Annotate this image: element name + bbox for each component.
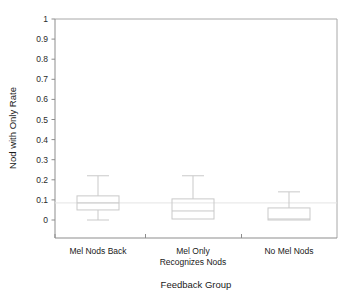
x-category-label: Mel Nods Back — [69, 246, 127, 256]
category-labels: Mel Nods BackMel OnlyRecognizes NodsNo M… — [69, 246, 313, 267]
plot-frame — [55, 19, 337, 238]
x-axis — [55, 234, 242, 238]
box-plot-item — [268, 192, 310, 220]
y-tick-label: 0.5 — [36, 115, 48, 125]
x-category-label: Mel Only — [176, 246, 210, 256]
box-plot-item — [172, 176, 214, 219]
x-category-label: No Mel Nods — [264, 246, 313, 256]
y-tick-label: 1 — [43, 14, 48, 24]
y-tick-label: 0.9 — [36, 34, 48, 44]
y-tick-label: 0.1 — [36, 195, 48, 205]
y-tick-label: 0.2 — [36, 175, 48, 185]
box-iqr — [172, 199, 214, 219]
box-iqr — [268, 208, 310, 220]
chart-canvas: 00.10.20.30.40.50.60.70.80.91 Mel Nods B… — [0, 0, 352, 300]
x-axis-title: Feedback Group — [161, 279, 232, 290]
y-tick-label: 0.6 — [36, 94, 48, 104]
y-axis: 00.10.20.30.40.50.60.70.80.91 — [36, 14, 55, 225]
y-tick-label: 0.8 — [36, 54, 48, 64]
y-tick-label: 0.3 — [36, 155, 48, 165]
y-tick-label: 0.7 — [36, 74, 48, 84]
y-tick-label: 0.4 — [36, 135, 48, 145]
x-category-label: Recognizes Nods — [160, 257, 227, 267]
box-plot-chart: 00.10.20.30.40.50.60.70.80.91 Mel Nods B… — [0, 0, 352, 300]
y-tick-label: 0 — [43, 215, 48, 225]
y-axis-title: Nod with Only Rate — [7, 87, 18, 169]
box-plot-item — [77, 176, 119, 220]
box-plots — [55, 176, 337, 220]
